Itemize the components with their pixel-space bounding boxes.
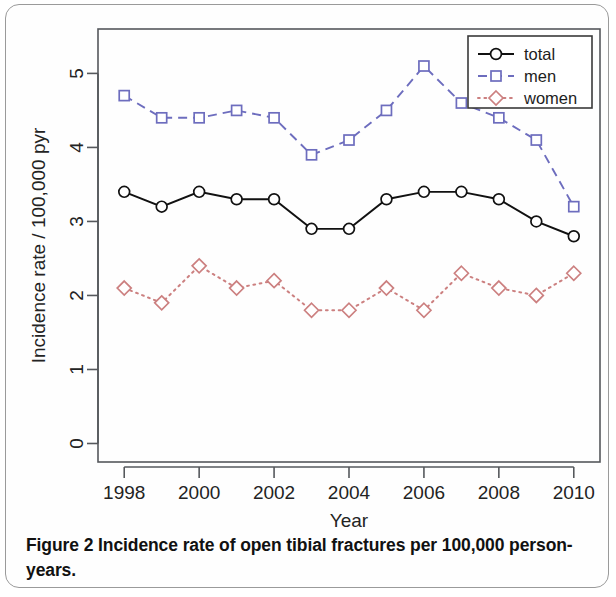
x-tick-label-2006: 2006 bbox=[403, 482, 445, 503]
data-point-total-2005 bbox=[381, 194, 392, 205]
data-point-men-2003 bbox=[307, 150, 317, 160]
data-point-total-1999 bbox=[156, 201, 167, 212]
y-tick-label-4: 4 bbox=[67, 142, 88, 153]
x-tick-label-2010: 2010 bbox=[553, 482, 595, 503]
data-point-women-2010 bbox=[567, 266, 581, 280]
data-point-men-1999 bbox=[157, 113, 167, 123]
x-tick-label-2008: 2008 bbox=[478, 482, 520, 503]
x-tick-label-2000: 2000 bbox=[178, 482, 220, 503]
series-women bbox=[117, 259, 581, 317]
x-axis-title: Year bbox=[330, 510, 369, 530]
data-point-women-2000 bbox=[192, 259, 206, 273]
y-tick-label-0: 0 bbox=[67, 438, 88, 449]
data-point-men-2001 bbox=[232, 105, 242, 115]
incidence-rate-line-chart: 012345Incidence rate / 100,000 pyr199820… bbox=[0, 0, 616, 530]
legend-marker-total bbox=[491, 49, 502, 60]
data-point-men-2004 bbox=[344, 135, 354, 145]
y-axis-title: Incidence rate / 100,000 pyr bbox=[28, 127, 49, 363]
data-point-total-2009 bbox=[531, 216, 542, 227]
data-point-women-2003 bbox=[305, 303, 319, 317]
legend-marker-men bbox=[491, 71, 501, 81]
data-point-men-2010 bbox=[569, 202, 579, 212]
data-point-total-2006 bbox=[419, 186, 430, 197]
series-total bbox=[119, 186, 579, 241]
data-point-women-2005 bbox=[379, 281, 393, 295]
y-tick-label-2: 2 bbox=[67, 290, 88, 301]
data-point-women-2008 bbox=[492, 281, 506, 295]
data-point-total-2004 bbox=[344, 223, 355, 234]
data-point-total-2003 bbox=[306, 223, 317, 234]
legend-label-men: men bbox=[524, 67, 556, 85]
data-point-total-2007 bbox=[456, 186, 467, 197]
y-tick-label-5: 5 bbox=[67, 68, 88, 79]
data-point-total-2001 bbox=[231, 194, 242, 205]
data-point-women-2009 bbox=[529, 288, 543, 302]
data-point-total-1998 bbox=[119, 186, 130, 197]
figure-caption: Figure 2 Incidence rate of open tibial f… bbox=[26, 533, 586, 583]
data-point-men-2009 bbox=[531, 135, 541, 145]
data-point-men-2000 bbox=[194, 113, 204, 123]
figure-caption-label: Figure 2 bbox=[26, 535, 93, 555]
x-tick-label-2004: 2004 bbox=[328, 482, 371, 503]
x-tick-label-1998: 1998 bbox=[103, 482, 145, 503]
data-point-men-2008 bbox=[494, 113, 504, 123]
data-point-men-2002 bbox=[269, 113, 279, 123]
figure-caption-text: Incidence rate of open tibial fractures … bbox=[26, 535, 573, 580]
legend-label-women: women bbox=[523, 89, 577, 107]
data-point-men-2007 bbox=[456, 98, 466, 108]
x-tick-label-2002: 2002 bbox=[253, 482, 295, 503]
data-point-total-2008 bbox=[493, 194, 504, 205]
data-point-total-2010 bbox=[568, 231, 579, 242]
data-point-men-2006 bbox=[419, 61, 429, 71]
chart-legend: totalmenwomen bbox=[468, 36, 592, 108]
data-point-women-1998 bbox=[117, 281, 131, 295]
data-point-total-2002 bbox=[269, 194, 280, 205]
data-point-women-2001 bbox=[230, 281, 244, 295]
chart-area: 012345Incidence rate / 100,000 pyr199820… bbox=[0, 0, 616, 530]
y-tick-label-3: 3 bbox=[67, 216, 88, 227]
data-point-men-2005 bbox=[381, 105, 391, 115]
y-tick-label-1: 1 bbox=[67, 364, 88, 375]
data-point-men-1998 bbox=[119, 91, 129, 101]
legend-label-total: total bbox=[524, 45, 555, 63]
data-point-women-2004 bbox=[342, 303, 356, 317]
data-point-total-2000 bbox=[194, 186, 205, 197]
